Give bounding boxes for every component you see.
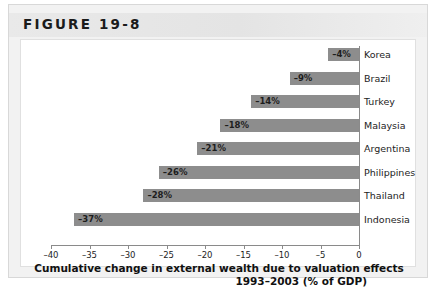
- x-tick: [205, 245, 206, 249]
- x-tick: [282, 245, 283, 249]
- x-tick-label: –30: [120, 250, 135, 260]
- bar: [143, 189, 359, 202]
- bar-value-label: –37%: [74, 213, 103, 226]
- bar-value-label: –26%: [159, 166, 188, 179]
- zero-axis-line: [359, 46, 360, 246]
- category-label: Turkey: [364, 95, 395, 108]
- bar-row: –14%Turkey: [21, 95, 417, 108]
- category-label: Argentina: [364, 142, 410, 155]
- x-tick: [244, 245, 245, 249]
- category-label: Korea: [364, 48, 391, 61]
- bar-row: –21%Argentina: [21, 142, 417, 155]
- x-tick-label: 0: [356, 250, 361, 260]
- x-tick: [90, 245, 91, 249]
- bar-value-label: –21%: [197, 142, 226, 155]
- category-label: Brazil: [364, 72, 391, 85]
- bar-value-label: –28%: [143, 189, 172, 202]
- caption-line-2: 1993–2003 (% of GDP): [29, 275, 409, 288]
- bar-value-label: –18%: [220, 119, 249, 132]
- x-tick-label: –15: [236, 250, 251, 260]
- category-label: Philippines: [364, 166, 415, 179]
- x-tick: [321, 245, 322, 249]
- x-tick-label: –5: [316, 250, 326, 260]
- bar-value-label: –9%: [290, 72, 313, 85]
- x-tick-label: –25: [159, 250, 174, 260]
- x-tick-label: –20: [197, 250, 212, 260]
- x-tick: [51, 245, 52, 249]
- x-tick-label: –10: [274, 250, 289, 260]
- x-tick-label: –35: [82, 250, 97, 260]
- chart-caption: Cumulative change in external wealth due…: [29, 262, 409, 288]
- figure-title: FIGURE 19-8: [23, 16, 142, 32]
- x-tick: [359, 245, 360, 249]
- x-tick: [128, 245, 129, 249]
- bar-value-label: –14%: [251, 95, 280, 108]
- bar-chart: –4%Korea–9%Brazil–14%Turkey–18%Malaysia–…: [21, 40, 417, 268]
- plot-card: –4%Korea–9%Brazil–14%Turkey–18%Malaysia–…: [20, 39, 416, 267]
- bars-layer: –4%Korea–9%Brazil–14%Turkey–18%Malaysia–…: [21, 40, 417, 268]
- figure-frame: FIGURE 19-8 –4%Korea–9%Brazil–14%Turkey–…: [8, 4, 428, 278]
- caption-line-1: Cumulative change in external wealth due…: [29, 262, 409, 275]
- bar: [159, 166, 359, 179]
- bar-row: –4%Korea: [21, 48, 417, 61]
- bar-row: –37%Indonesia: [21, 213, 417, 226]
- bar-row: –18%Malaysia: [21, 119, 417, 132]
- bar-row: –9%Brazil: [21, 72, 417, 85]
- bar-value-label: –4%: [328, 48, 351, 61]
- bar-row: –26%Philippines: [21, 166, 417, 179]
- x-tick: [167, 245, 168, 249]
- bar: [74, 213, 359, 226]
- category-label: Malaysia: [364, 119, 406, 132]
- category-label: Indonesia: [364, 213, 410, 226]
- x-tick-label: –40: [43, 250, 58, 260]
- category-label: Thailand: [364, 189, 405, 202]
- bar-row: –28%Thailand: [21, 189, 417, 202]
